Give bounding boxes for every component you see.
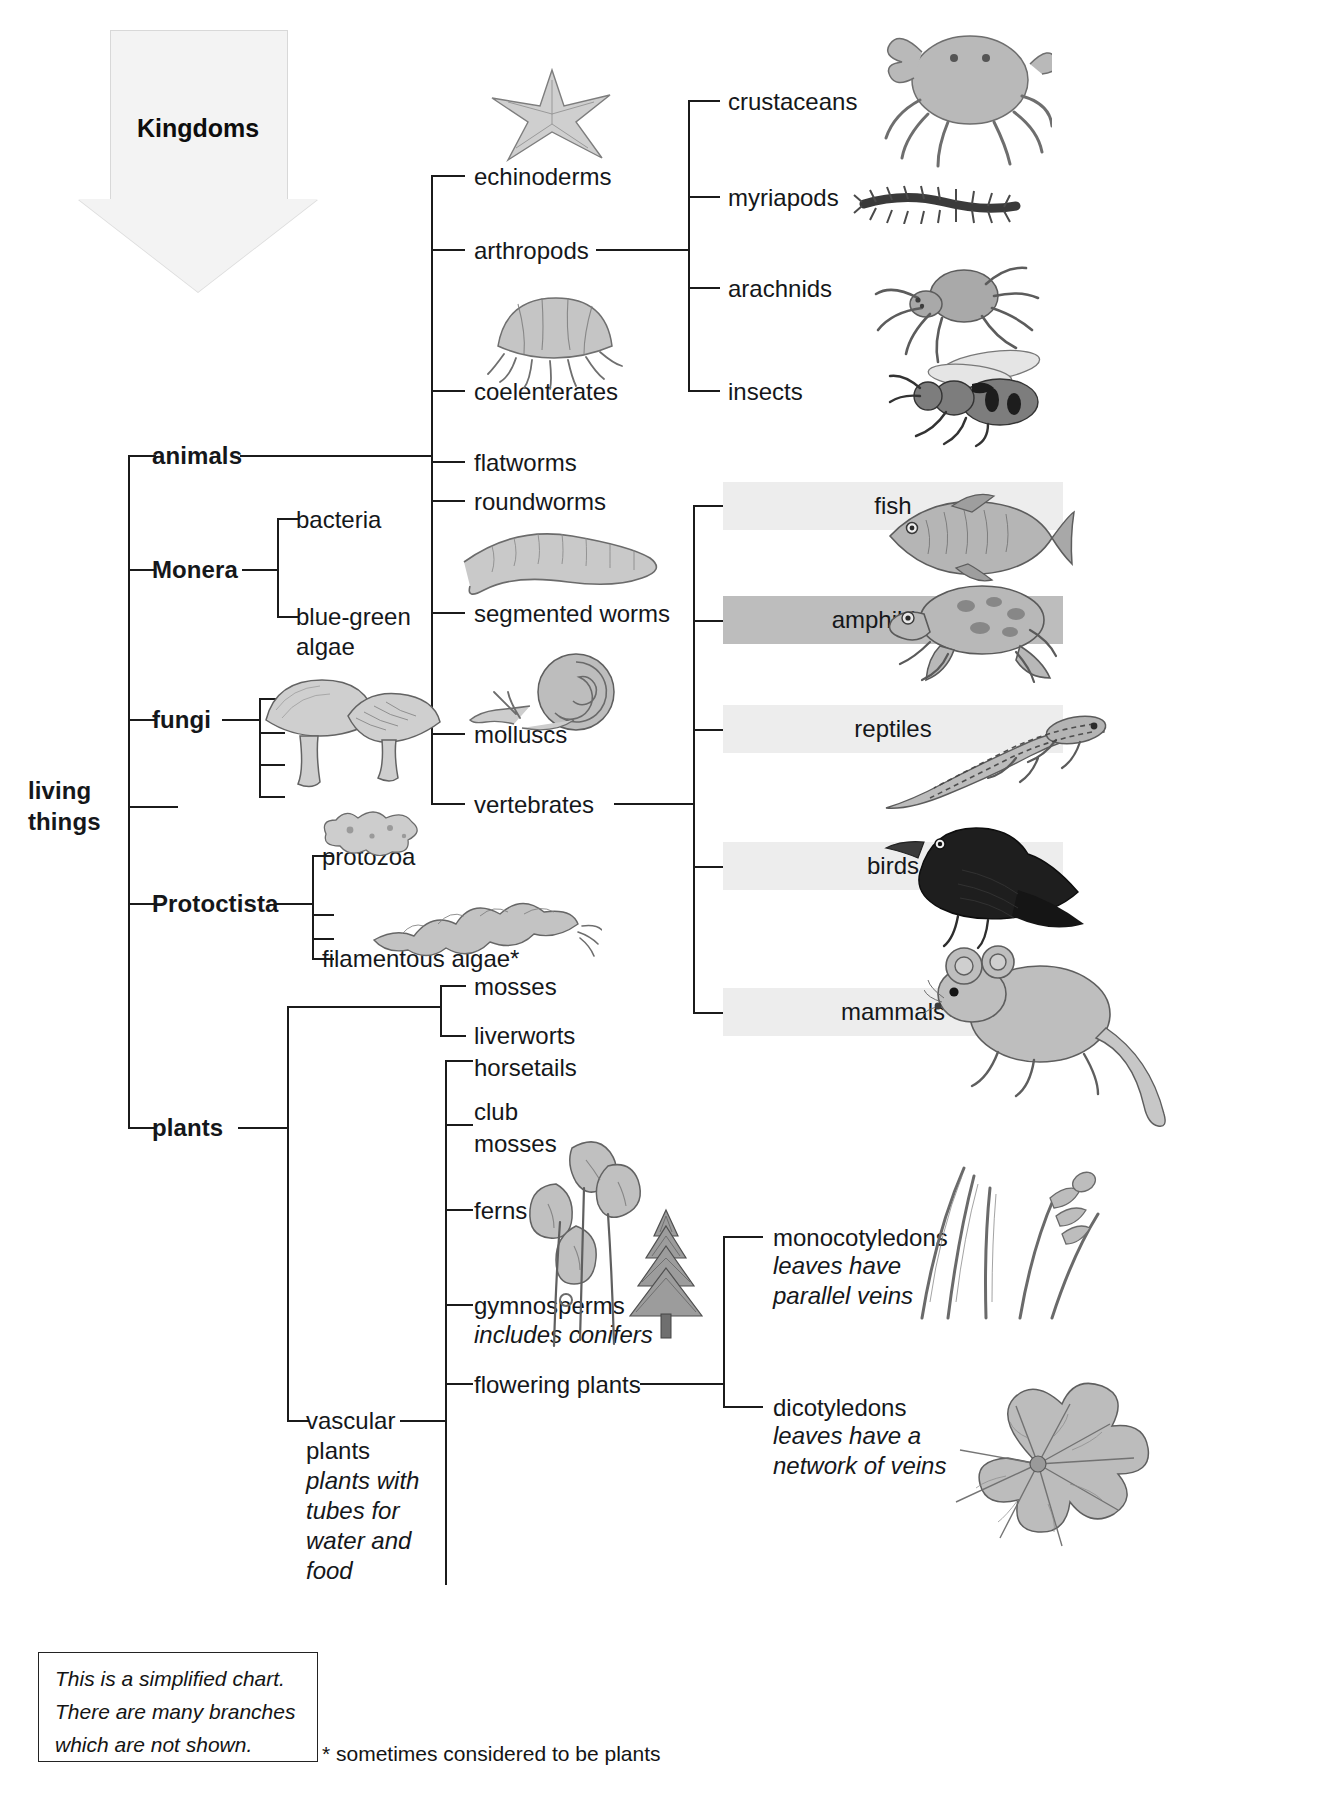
protoctista-stub-mid1	[312, 914, 334, 916]
stub-gymnosperms	[445, 1304, 473, 1306]
monera-blue-green-algae[interactable]: blue-green algae	[296, 602, 426, 662]
note-line-1: This is a simplified chart.	[55, 1665, 303, 1692]
stub-echinoderms	[431, 175, 465, 177]
earthworm-illustration	[452, 520, 672, 606]
frog-illustration	[870, 570, 1070, 690]
plant-flowering-plants[interactable]: flowering plants	[474, 1370, 641, 1400]
mouse-illustration	[924, 936, 1174, 1146]
kingdom-protoctista[interactable]: Protoctista	[152, 889, 278, 919]
stub-crustaceans	[688, 100, 720, 102]
algae-illustration	[366, 886, 602, 966]
arrow-head-icon	[78, 199, 318, 292]
vertebrate-spine	[693, 505, 695, 1013]
phylum-vertebrates[interactable]: vertebrates	[474, 790, 594, 820]
plant-vascular-label[interactable]: vascular plants	[306, 1406, 428, 1466]
kingdom-monera[interactable]: Monera	[152, 555, 238, 585]
kingdom-fungi[interactable]: fungi	[152, 705, 211, 735]
stub-liverworts	[440, 1035, 466, 1037]
protoctista-spine	[312, 855, 314, 960]
monera-connector	[242, 569, 278, 571]
phylum-flatworms[interactable]: flatworms	[474, 448, 577, 478]
plant-vascular-note: plants with tubes for water and food	[306, 1466, 434, 1586]
amoeba-illustration	[316, 808, 426, 856]
stub-roundworms	[431, 500, 465, 502]
stub-coelenterates	[431, 390, 465, 392]
phylum-arthropods[interactable]: arthropods	[474, 236, 589, 266]
broadleaf-illustration	[920, 1380, 1160, 1560]
grass-illustration	[900, 1152, 1110, 1322]
stub-flatworms	[431, 461, 465, 463]
protoctista-connector	[275, 903, 313, 905]
starfish-illustration	[478, 62, 628, 167]
jellyfish-illustration	[482, 288, 628, 394]
root-connector	[128, 806, 178, 808]
kingdom-plants[interactable]: plants	[152, 1113, 223, 1143]
stub-arthropods	[431, 249, 465, 251]
root-label: living things	[28, 775, 128, 837]
note-line-2: There are many branches	[55, 1698, 303, 1725]
crab-illustration	[862, 8, 1052, 173]
arthropod-spine	[688, 100, 690, 392]
stub-segmented-worms	[431, 612, 465, 614]
mushroom-illustration	[252, 668, 448, 792]
arthropods-connector	[596, 249, 689, 251]
nonvascular-connector	[287, 1006, 441, 1008]
stub-myriapods	[688, 196, 720, 198]
stub-mosses	[440, 985, 466, 987]
protoctista-stub-mid2	[312, 938, 334, 940]
plants-spine	[287, 1006, 289, 1421]
snail-illustration	[462, 648, 642, 742]
plants-connector	[238, 1127, 288, 1129]
stub-flowering-plants	[445, 1383, 473, 1385]
monera-spine	[277, 518, 279, 618]
stub-dicotyledons	[723, 1406, 763, 1408]
flowering-spine	[723, 1236, 725, 1408]
centipede-illustration	[852, 180, 1024, 224]
conifer-illustration	[616, 1206, 716, 1344]
flowering-connector	[640, 1383, 724, 1385]
plant-horsetails[interactable]: horsetails	[474, 1053, 577, 1083]
nonvascular-spine	[440, 985, 442, 1037]
kingdom-spine	[128, 456, 130, 1128]
stub-vertebrates	[431, 803, 465, 805]
plant-dicotyledons[interactable]: dicotyledons	[773, 1393, 906, 1423]
phylum-roundworms[interactable]: roundworms	[474, 487, 606, 517]
class-crustaceans[interactable]: crustaceans	[728, 87, 857, 117]
note-box: This is a simplified chart. There are ma…	[38, 1652, 318, 1762]
plant-liverworts[interactable]: liverworts	[474, 1021, 575, 1051]
stub-monocotyledons	[723, 1236, 763, 1238]
vascular-connector	[400, 1420, 446, 1422]
kingdoms-label: Kingdoms	[78, 114, 318, 143]
stub-club-mosses	[445, 1124, 473, 1126]
kingdom-animals[interactable]: animals	[152, 441, 242, 471]
note-line-3: which are not shown.	[55, 1731, 303, 1758]
vascular-spine	[445, 1060, 447, 1585]
vertebrates-connector	[614, 803, 694, 805]
monera-bacteria[interactable]: bacteria	[296, 505, 381, 535]
animals-connector	[240, 455, 432, 457]
class-insects[interactable]: insects	[728, 377, 803, 407]
wasp-illustration	[850, 340, 1050, 450]
class-arachnids[interactable]: arachnids	[728, 274, 832, 304]
kingdoms-arrow: Kingdoms	[78, 30, 318, 292]
fungi-stub-4	[259, 796, 285, 798]
stub-horsetails	[445, 1060, 473, 1062]
class-myriapods[interactable]: myriapods	[728, 183, 839, 213]
stub-ferns	[445, 1209, 473, 1211]
classification-chart: Kingdoms living things animals Monera fu…	[0, 0, 1317, 1813]
stub-insects	[688, 390, 720, 392]
footnote: * sometimes considered to be plants	[322, 1742, 661, 1766]
plant-mosses[interactable]: mosses	[474, 972, 557, 1002]
stub-arachnids	[688, 287, 720, 289]
